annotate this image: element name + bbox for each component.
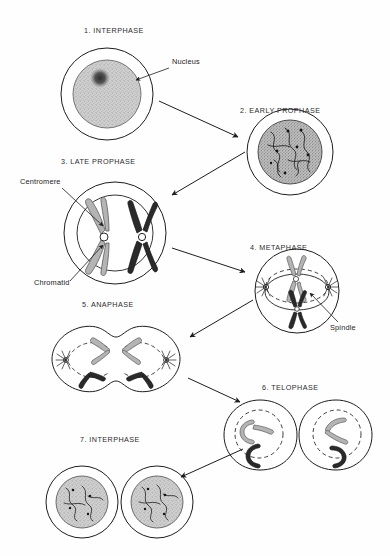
nucleus-shape bbox=[73, 60, 141, 128]
annotation-label-spindle: Spindle bbox=[330, 323, 356, 332]
arrow-2-to-3 bbox=[172, 152, 245, 195]
stage-label-anaphase-5: 5. ANAPHASE bbox=[82, 300, 134, 309]
annotation-label-chromatid: Chromatid bbox=[34, 278, 69, 287]
stage-label-late-prophase-3: 3. LATE PROPHASE bbox=[61, 157, 136, 166]
arrow-6-to-7 bbox=[181, 449, 243, 477]
annotation-label-centromere: Centromere bbox=[20, 177, 61, 186]
stage-late-prophase-3-figure bbox=[64, 182, 166, 284]
stage-label-metaphase-4: 4. METAPHASE bbox=[250, 243, 307, 252]
centromere-shape bbox=[138, 233, 145, 240]
stage-label-interphase-1: 1. INTERPHASE bbox=[84, 26, 144, 35]
stage-label-interphase-7: 7. INTERPHASE bbox=[80, 435, 140, 444]
arrow-4-to-5 bbox=[190, 300, 253, 337]
annotation-label-nucleus: Nucleus bbox=[172, 57, 200, 66]
stage-interphase-7-figure bbox=[46, 466, 193, 538]
stage-label-early-prophase-2: 2. EARLY PROPHASE bbox=[240, 106, 321, 115]
nucleolus-shape bbox=[91, 69, 110, 88]
cell-membrane-furrowed bbox=[52, 326, 180, 391]
nucleus-shape bbox=[56, 476, 108, 528]
centromere-shape bbox=[100, 233, 108, 241]
stage-anaphase-5-figure bbox=[52, 326, 180, 391]
arrow-5-to-6 bbox=[188, 378, 240, 402]
nucleus-shape bbox=[258, 120, 322, 184]
stage-early-prophase-2-figure bbox=[247, 109, 333, 195]
mitosis-diagram-page: 1. INTERPHASE 2. EARLY PROPHASE 3. LATE … bbox=[0, 0, 390, 556]
arrow-3-to-4 bbox=[172, 248, 245, 272]
stage-metaphase-4-figure bbox=[255, 249, 339, 333]
stage-label-telophase-6: 6. TELOPHASE bbox=[262, 383, 318, 392]
arrow-1-to-2 bbox=[159, 101, 238, 137]
stage-telophase-6-figure bbox=[224, 400, 372, 470]
stage-interphase-1-figure bbox=[61, 48, 153, 140]
